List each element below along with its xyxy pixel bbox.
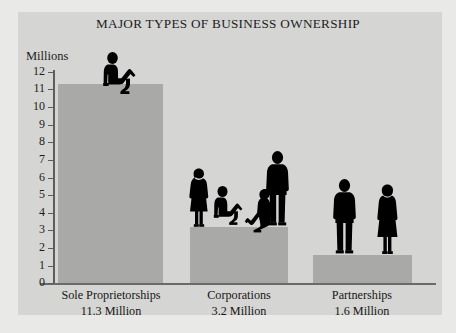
category-caption-sole-proprietorships: Sole Proprietorships 11.3 Million xyxy=(46,288,176,319)
y-tick-mark xyxy=(48,230,54,231)
y-tick-label: 6 xyxy=(25,171,45,183)
chart-title: MAJOR TYPES OF BUSINESS OWNERSHIP xyxy=(0,16,456,32)
chart-frame: MAJOR TYPES OF BUSINESS OWNERSHIP Millio… xyxy=(0,0,456,333)
standing-man-silhouette-corporations xyxy=(264,151,291,228)
y-tick-label: 9 xyxy=(25,118,45,130)
y-tick-mark xyxy=(48,283,54,284)
y-tick-mark xyxy=(48,160,54,161)
category-name: Sole Proprietorships xyxy=(46,288,176,304)
category-caption-corporations: Corporations 3.2 Million xyxy=(189,288,289,319)
y-tick-mark xyxy=(48,125,54,126)
y-tick-label: 8 xyxy=(25,135,45,147)
category-value: 3.2 Million xyxy=(189,304,289,320)
category-value: 11.3 Million xyxy=(46,304,176,320)
seated-man-silhouette-corporations xyxy=(211,186,245,228)
category-value: 1.6 Million xyxy=(312,304,412,320)
y-tick-mark xyxy=(48,178,54,179)
standing-woman-silhouette-corporations xyxy=(187,168,211,228)
y-tick-mark xyxy=(48,142,54,143)
y-tick-label: 2 xyxy=(25,241,45,253)
category-name: Partnerships xyxy=(312,288,412,304)
y-tick-mark xyxy=(48,89,54,90)
y-tick-label: 7 xyxy=(25,153,45,165)
y-tick-label: 5 xyxy=(25,188,45,200)
y-tick-label: 11 xyxy=(25,82,45,94)
y-tick-label: 0 xyxy=(25,276,45,288)
y-tick-mark xyxy=(48,266,54,267)
seated-man-silhouette xyxy=(99,52,139,95)
y-tick-label: 12 xyxy=(25,65,45,77)
bar-partnerships[interactable] xyxy=(313,255,412,283)
standing-woman-silhouette-partnerships xyxy=(375,184,400,256)
y-tick-mark xyxy=(48,213,54,214)
y-tick-label: 1 xyxy=(25,259,45,271)
y-tick-mark xyxy=(48,72,54,73)
y-tick-mark xyxy=(48,248,54,249)
bar-corporations[interactable] xyxy=(190,227,288,283)
category-name: Corporations xyxy=(189,288,289,304)
bar-sole-proprietorships[interactable] xyxy=(58,84,163,283)
y-tick-label: 3 xyxy=(25,223,45,235)
x-axis-line xyxy=(40,283,436,285)
y-tick-mark xyxy=(48,107,54,108)
y-tick-label: 4 xyxy=(25,206,45,218)
y-tick-mark xyxy=(48,195,54,196)
category-caption-partnerships: Partnerships 1.6 Million xyxy=(312,288,412,319)
y-tick-label: 10 xyxy=(25,100,45,112)
standing-man-silhouette-partnerships xyxy=(331,179,358,256)
y-axis-unit-label: Millions xyxy=(26,49,68,64)
